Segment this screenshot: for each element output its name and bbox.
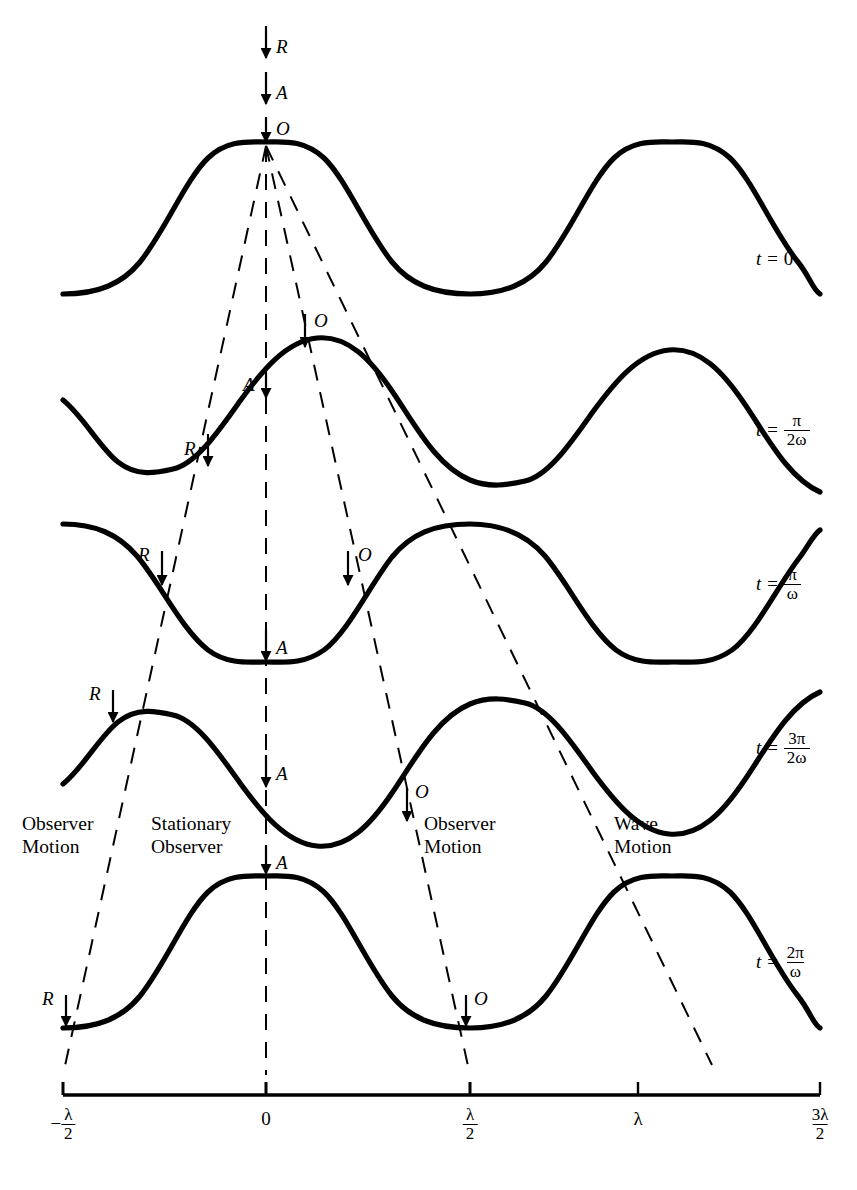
time-value-row-1: 0 — [784, 248, 794, 270]
time-numerator-row-5: 2π — [784, 944, 807, 962]
wave-curves — [63, 142, 820, 1028]
time-denominator-row-4: 2ω — [784, 748, 810, 767]
axis-label-lambda: λ — [633, 1108, 642, 1130]
wave-motion-figure: R A O R A O R A O R A O R A O t = 0 t = … — [0, 0, 857, 1190]
axis-numerator-4: 3λ — [809, 1106, 832, 1124]
axis-fraction-0: λ 2 — [61, 1106, 76, 1142]
time-denominator-row-5: ω — [787, 962, 804, 981]
annotation-wave-motion-line2: Motion — [614, 835, 671, 858]
label-O-row-2: O — [314, 310, 328, 332]
time-numerator-row-2: π — [789, 412, 804, 430]
annotation-observer-motion-right-line2: Motion — [424, 835, 495, 858]
time-prefix-row-5: t = — [756, 951, 779, 973]
annotation-observer-motion-left-line1: Observer — [22, 812, 93, 835]
label-R-row-3: R — [138, 544, 150, 566]
annotation-observer-motion-right-line1: Observer — [424, 812, 495, 835]
axis-numerator-0: λ — [61, 1106, 75, 1124]
world-line-observer-motion-right — [266, 146, 470, 1075]
time-fraction-row-5: 2π ω — [784, 944, 807, 980]
world-line-observer-motion-left — [63, 146, 266, 1075]
time-fraction-row-2: π 2ω — [784, 412, 810, 448]
axis-denominator-2: 2 — [463, 1124, 478, 1143]
label-A-row-5: A — [276, 852, 288, 874]
axis-whole-1: 0 — [261, 1108, 271, 1130]
time-prefix-row-1: t = — [756, 248, 779, 270]
annotation-wave-motion: Wave Motion — [614, 812, 671, 858]
label-O-row-5: O — [474, 988, 488, 1010]
time-prefix-row-3: t = — [756, 573, 779, 595]
annotation-observer-motion-right: Observer Motion — [424, 812, 495, 858]
annotation-stationary-observer: Stationary Observer — [151, 812, 231, 858]
axis-label--lambda-over-2: − λ 2 — [50, 1106, 75, 1142]
label-A-row-2: A — [243, 374, 255, 396]
axis-numerator-2: λ — [463, 1106, 477, 1124]
axis-label-3lambda-over-2: 3λ 2 — [809, 1106, 832, 1142]
time-fraction-row-4: 3π 2ω — [784, 730, 810, 766]
axis-whole-3: λ — [633, 1108, 642, 1130]
axis-fraction-2: λ 2 — [463, 1106, 478, 1142]
time-denominator-row-2: 2ω — [784, 430, 810, 449]
time-numerator-row-4: 3π — [785, 730, 808, 748]
wave-curve-row-3 — [63, 524, 820, 662]
label-R-row-4: R — [89, 683, 101, 705]
label-A-row-4: A — [276, 763, 288, 785]
label-O-row-3: O — [358, 544, 372, 566]
time-label-row-5: t = 2π ω — [756, 944, 807, 980]
wave-curve-row-2 — [63, 338, 820, 492]
label-R-row-5: R — [42, 988, 54, 1010]
time-label-row-2: t = π 2ω — [756, 412, 810, 448]
axis-label-0: 0 — [261, 1108, 271, 1130]
annotation-observer-motion-left: Observer Motion — [22, 812, 93, 858]
label-R-top: R — [276, 36, 288, 58]
annotation-stationary-observer-line2: Observer — [151, 835, 231, 858]
diagram-canvas — [0, 0, 857, 1190]
label-O-row-4: O — [415, 781, 429, 803]
time-label-row-3: t = π ω — [756, 566, 801, 602]
annotation-observer-motion-left-line2: Motion — [22, 835, 93, 858]
axis-fraction-4: 3λ 2 — [809, 1106, 832, 1142]
label-R-row-2: R — [184, 438, 196, 460]
time-denominator-row-3: ω — [784, 584, 801, 603]
annotation-stationary-observer-line1: Stationary — [151, 812, 231, 835]
annotation-wave-motion-line1: Wave — [614, 812, 671, 835]
label-O-top: O — [276, 118, 290, 140]
time-numerator-row-3: π — [785, 566, 800, 584]
wave-curve-row-5 — [63, 876, 820, 1028]
world-lines — [63, 146, 712, 1075]
label-A-row-3: A — [276, 637, 288, 659]
label-A-top: A — [276, 82, 288, 104]
axis-denominator-0: 2 — [61, 1124, 76, 1143]
time-prefix-row-4: t = — [756, 737, 779, 759]
x-axis — [63, 1082, 820, 1095]
axis-label-sign-0: − — [50, 1113, 61, 1135]
wave-curve-row-1 — [63, 142, 820, 294]
point-marker-arrows — [66, 314, 466, 1026]
axis-label-lambda-over-2: λ 2 — [463, 1106, 478, 1142]
time-fraction-row-3: π ω — [784, 566, 801, 602]
axis-denominator-4: 2 — [813, 1124, 828, 1143]
time-label-row-1: t = 0 — [756, 248, 793, 270]
world-line-wave-motion — [266, 146, 712, 1065]
time-label-row-4: t = 3π 2ω — [756, 730, 810, 766]
time-prefix-row-2: t = — [756, 419, 779, 441]
